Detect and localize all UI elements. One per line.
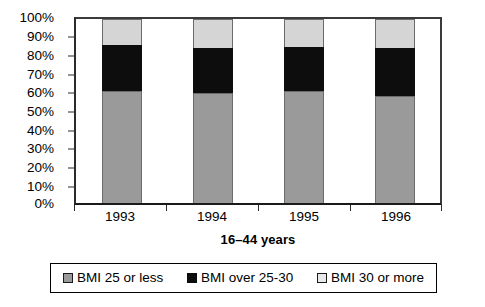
legend-item-bmi-30-or-more[interactable]: BMI 30 or more: [317, 271, 424, 285]
y-axis-tick-label: 20%: [27, 161, 54, 175]
chart-legend: BMI 25 or less BMI over 25-30 BMI 30 or …: [50, 263, 437, 293]
light-gray-swatch-icon: [317, 273, 327, 283]
x-axis-title: 16–44 years: [74, 232, 442, 247]
legend-item-bmi-25-or-less[interactable]: BMI 25 or less: [63, 271, 163, 285]
segment-bmi-30-or-more: [102, 19, 142, 45]
y-axis-tick-label: 100%: [19, 11, 54, 25]
mid-gray-swatch-icon: [63, 273, 73, 283]
segment-bmi-25-or-less: [193, 93, 233, 203]
y-axis-tick-label: 0%: [34, 197, 54, 211]
segment-bmi-over-25-30: [284, 47, 324, 91]
legend-item-label: BMI over 25-30: [201, 271, 293, 285]
x-axis-tick-label-1996: 1996: [376, 209, 416, 225]
segment-bmi-over-25-30: [375, 48, 415, 96]
segment-bmi-30-or-more: [284, 19, 324, 47]
segment-bmi-25-or-less: [284, 91, 324, 203]
segment-bmi-30-or-more: [375, 19, 415, 48]
x-axis-tick-label-1995: 1995: [284, 209, 324, 225]
y-axis-tick-label: 80%: [27, 49, 54, 63]
y-axis: 100% 90% 80% 70% 60% 50% 40% 30% 20% 10%…: [0, 0, 66, 222]
segment-bmi-25-or-less: [375, 96, 415, 203]
x-axis-tick-label-1993: 1993: [100, 209, 140, 225]
segment-bmi-25-or-less: [102, 91, 142, 203]
y-axis-tick-label: 40%: [27, 124, 54, 138]
x-axis: 1993 1994 1995 1996: [74, 209, 442, 231]
bar-1995[interactable]: [284, 19, 324, 203]
segment-bmi-30-or-more: [193, 19, 233, 48]
legend-item-label: BMI 25 or less: [77, 271, 163, 285]
bar-1996[interactable]: [375, 19, 415, 203]
stacked-bar-chart-figure: 100% 90% 80% 70% 60% 50% 40% 30% 20% 10%…: [0, 0, 485, 307]
bars-container: [76, 19, 440, 203]
x-axis-tick-label-1994: 1994: [192, 209, 232, 225]
y-axis-tick-label: 50%: [27, 105, 54, 119]
bar-1993[interactable]: [102, 19, 142, 203]
segment-bmi-over-25-30: [102, 45, 142, 91]
plot-area: [74, 17, 442, 205]
legend-item-bmi-over-25-30[interactable]: BMI over 25-30: [187, 271, 293, 285]
bar-1994[interactable]: [193, 19, 233, 203]
black-swatch-icon: [187, 273, 197, 283]
legend-item-label: BMI 30 or more: [331, 271, 424, 285]
segment-bmi-over-25-30: [193, 48, 233, 92]
y-axis-tick-label: 90%: [27, 30, 54, 44]
y-axis-tick-label: 60%: [27, 86, 54, 100]
y-axis-tick-label: 70%: [27, 68, 54, 82]
y-axis-tick-label: 30%: [27, 142, 54, 156]
y-axis-tick-label: 10%: [27, 180, 54, 194]
